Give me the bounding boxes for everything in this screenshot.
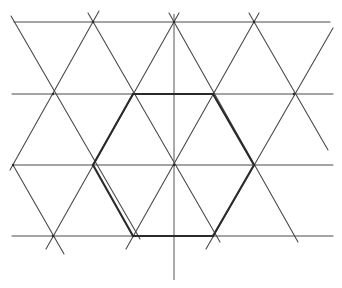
vertex-point <box>132 235 134 237</box>
vertex-point <box>173 164 175 166</box>
vertex-point <box>12 164 14 166</box>
lattice-diagram <box>0 0 342 288</box>
vertex-point <box>52 235 54 237</box>
vertex-point <box>92 21 94 23</box>
vertex-point <box>212 235 214 237</box>
vertex-point <box>173 21 175 23</box>
vertex-point <box>212 93 214 95</box>
vertex-point <box>92 164 94 166</box>
vertex-point <box>253 21 255 23</box>
background <box>0 0 342 288</box>
vertex-point <box>52 93 54 95</box>
vertex-point <box>132 93 134 95</box>
vertex-point <box>293 93 295 95</box>
vertex-point <box>253 164 255 166</box>
